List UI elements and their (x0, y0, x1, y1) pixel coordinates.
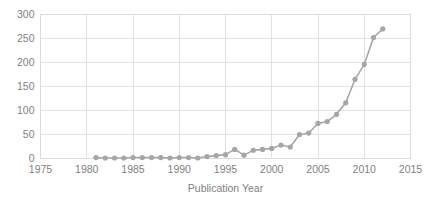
data-point: 1990: 2 (177, 155, 182, 160)
data-point: 1995: 8 (223, 152, 228, 157)
x-tick-label: 1995 (214, 163, 238, 175)
data-point: 2009: 165 (352, 77, 357, 82)
data-point: 1996: 19 (232, 147, 237, 152)
x-tick-label: 2010 (353, 163, 377, 175)
data-point: 1994: 6 (214, 153, 219, 158)
y-tick-label: 200 (17, 56, 35, 68)
y-tick-label: 250 (17, 32, 35, 44)
data-point: 1985: 2 (130, 155, 135, 160)
chart-container: 050100150200250300 197519801985199019952… (0, 0, 434, 204)
data-point: 1993: 4 (204, 154, 209, 159)
data-point: 2001: 28 (278, 142, 283, 147)
x-tick-label: 2000 (260, 163, 284, 175)
data-point: 2007: 92 (334, 112, 339, 117)
data-point: 2002: 24 (288, 144, 293, 149)
x-axis-title: Publication Year (188, 182, 264, 194)
x-tick-label: 1975 (29, 163, 53, 175)
data-point: 1992: 1 (195, 155, 200, 160)
data-point: 1987: 2 (149, 155, 154, 160)
data-point: 2008: 116 (343, 100, 348, 105)
data-point: 2005: 73 (315, 121, 320, 126)
data-point: 2006: 77 (325, 119, 330, 124)
data-point: 1999: 19 (260, 147, 265, 152)
x-tick-label: 2015 (399, 163, 423, 175)
data-point: 1991: 2 (186, 155, 191, 160)
data-point: 1983: 1 (112, 155, 117, 160)
data-point: 1986: 2 (140, 155, 145, 160)
y-tick-label: 100 (17, 104, 35, 116)
data-point: 1998: 17 (251, 148, 256, 153)
data-point: 1982: 1 (103, 155, 108, 160)
data-point: 2004: 53 (306, 130, 311, 135)
y-tick-label: 50 (23, 128, 35, 140)
line-chart: 050100150200250300 197519801985199019952… (0, 0, 434, 204)
y-tick-label: 300 (17, 8, 35, 20)
data-point: 2003: 50 (297, 132, 302, 137)
x-tick-label: 1990 (168, 163, 192, 175)
data-point: 1981: 2 (93, 155, 98, 160)
data-point: 2011: 252 (371, 35, 376, 40)
x-tick-label: 1985 (121, 163, 145, 175)
data-point: 1997: 7 (241, 153, 246, 158)
x-tick-label: 1980 (75, 163, 99, 175)
data-point: 2010: 196 (362, 62, 367, 67)
x-tick-label: 2005 (306, 163, 330, 175)
data-point: 1988: 2 (158, 155, 163, 160)
data-point: 2012: 270 (380, 26, 385, 31)
x-axis-tick-labels: 197519801985199019952000200520102015 (29, 163, 423, 175)
y-tick-label: 150 (17, 80, 35, 92)
data-point: 1989: 1 (167, 155, 172, 160)
data-point: 2000: 21 (269, 146, 274, 151)
data-point: 1984: 1 (121, 155, 126, 160)
